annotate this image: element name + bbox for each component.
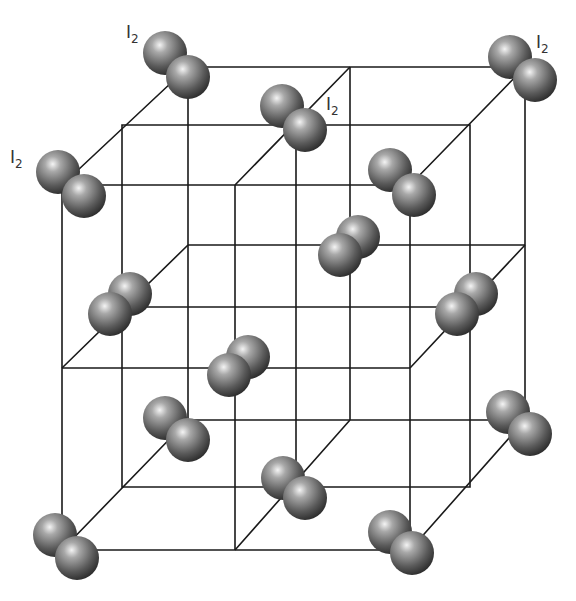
molecule-corner-bottom-right-front [368,510,434,575]
i2-label-top-left: I2 [126,22,139,46]
i2-label-top-right: I2 [536,32,549,56]
i2-label-center-top: I2 [326,94,339,118]
molecule-corner-bottom-right-back [486,390,552,456]
molecule-face-left [88,272,152,336]
iodine-lattice-diagram: I2 I2 I2 I2 [0,0,576,601]
iodine-molecules [33,31,557,580]
molecule-face-front [207,335,270,397]
i2-label-left: I2 [10,147,23,171]
molecule-corner-bottom-left-back [143,396,210,462]
molecule-face-right [435,272,498,336]
molecule-corner-top-right-front [368,148,436,217]
molecule-face-back [318,215,380,277]
molecule-corner-top-left-front [36,150,106,218]
molecule-face-top [260,84,327,152]
molecule-corner-top-left-back [143,31,210,99]
